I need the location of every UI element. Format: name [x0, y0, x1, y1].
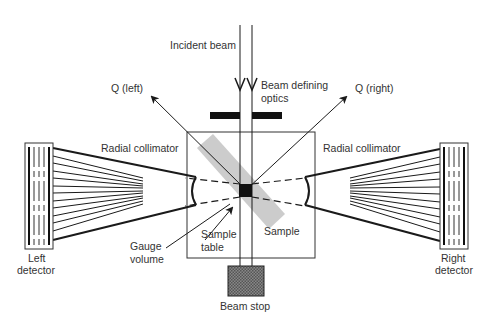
- sample-plate: [197, 134, 285, 229]
- label-q-right: Q (right): [355, 82, 394, 94]
- right-radial-collimator: [305, 149, 440, 241]
- beam-optics-slit-right: [252, 112, 282, 119]
- label-beam-stop: Beam stop: [220, 300, 270, 312]
- label-gauge-volume-1: Gauge: [130, 240, 162, 252]
- label-gauge-volume-2: volume: [130, 253, 164, 265]
- label-right-detector-1: Right: [441, 252, 466, 264]
- label-left-detector-1: Left: [28, 252, 46, 264]
- label-q-left: Q (left): [111, 82, 143, 94]
- label-radial-collimator-right: Radial collimator: [323, 142, 401, 154]
- label-sample: Sample: [264, 225, 300, 237]
- left-detector: [25, 143, 53, 249]
- neutron-diffraction-diagram: Incident beam Beam defining optics Q (le…: [0, 0, 493, 322]
- right-detector: [440, 143, 468, 249]
- gauge-volume: [239, 184, 252, 197]
- label-sample-table-1: Sample: [201, 228, 237, 240]
- beam-optics-slit-left: [210, 112, 240, 119]
- label-beam-defining-optics-1: Beam defining: [261, 79, 328, 91]
- label-incident-beam: Incident beam: [170, 39, 236, 51]
- beam-stop: [228, 266, 264, 296]
- label-sample-table-2: table: [201, 241, 224, 253]
- label-beam-defining-optics-2: optics: [261, 92, 288, 104]
- left-radial-collimator: [53, 148, 196, 240]
- label-right-detector-2: detector: [435, 264, 473, 276]
- label-left-detector-2: detector: [17, 264, 55, 276]
- label-radial-collimator-left: Radial collimator: [101, 142, 179, 154]
- dashed-right-upper: [252, 178, 305, 184]
